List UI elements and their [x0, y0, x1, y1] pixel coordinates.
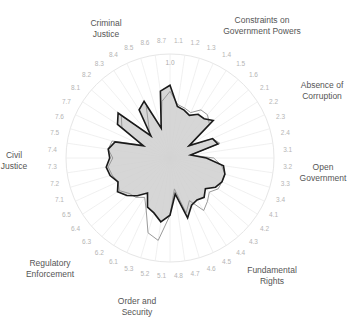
spoke-tick-label: 7.2 — [50, 180, 59, 187]
spoke-tick-label: 4.2 — [260, 225, 269, 232]
spoke-tick-label: 8.5 — [124, 44, 133, 51]
spoke-tick-label: 5.2 — [140, 270, 149, 277]
spoke-tick-label: 7.4 — [48, 146, 57, 153]
dimension-label: Constraints onGovernment Powers — [223, 15, 300, 36]
spoke-tick-label: 1.5 — [236, 60, 245, 67]
spoke-tick-label: 5.3 — [124, 265, 133, 272]
spoke-tick-label: 8.4 — [109, 51, 118, 58]
spoke-tick-label: 2.4 — [281, 129, 290, 136]
spoke-tick-label: 3.1 — [283, 146, 292, 153]
spoke-tick-label: 3.4 — [276, 196, 285, 203]
spoke-tick-label: 2.1 — [260, 84, 269, 91]
spoke-tick-label: 6.5 — [62, 211, 71, 218]
spoke-tick-label: 4.6 — [207, 265, 216, 272]
spoke-tick-label: 1.4 — [222, 51, 231, 58]
spoke-tick-label: 3.3 — [281, 180, 290, 187]
spoke-tick-label: 4.5 — [222, 258, 231, 265]
dimension-label: CriminalJustice — [90, 18, 121, 39]
spoke-tick-label: 8.6 — [140, 39, 149, 46]
dimension-label: OpenGovernment — [300, 162, 347, 183]
spoke-tick-label: 8.1 — [71, 84, 80, 91]
dimension-label: Absence ofCorruption — [301, 80, 344, 101]
spoke-tick-label: 2.2 — [269, 98, 278, 105]
spoke-tick-label: 8.2 — [82, 71, 91, 78]
radar-chart: 1.11.21.31.41.51.62.12.22.32.43.13.23.33… — [0, 0, 350, 321]
dimension-label: FundamentalRights — [247, 265, 297, 286]
spoke-tick-label: 6.4 — [71, 225, 80, 232]
spoke-tick-label: 4.7 — [191, 270, 200, 277]
spoke-tick-label: 1.1 — [174, 37, 183, 44]
spoke-tick-label: 8.7 — [157, 37, 166, 44]
ring-value-label: 1.0 — [165, 59, 174, 66]
dimension-label: CivilJustice — [1, 150, 28, 171]
spoke-tick-label: 7.5 — [50, 129, 59, 136]
spoke-tick-label: 1.2 — [191, 39, 200, 46]
spoke-tick-label: 3.2 — [283, 163, 292, 170]
spoke-tick-label: 2.3 — [276, 113, 285, 120]
spoke-tick-label: 4.1 — [269, 211, 278, 218]
spoke-tick-label: 4.3 — [249, 238, 258, 245]
spoke-tick-label: 8.3 — [95, 60, 104, 67]
dimension-label: Order andSecurity — [118, 296, 157, 317]
spoke-tick-label: 7.3 — [48, 163, 57, 170]
spoke-tick-label: 4.4 — [236, 249, 245, 256]
spoke-tick-label: 7.6 — [55, 113, 64, 120]
spoke-tick-label: 4.8 — [174, 272, 183, 279]
spoke-tick-label: 7.7 — [62, 98, 71, 105]
spoke-tick-label: 7.1 — [55, 196, 64, 203]
spoke-tick-label: 1.3 — [207, 44, 216, 51]
spoke-tick-label: 5.1 — [157, 272, 166, 279]
spoke-tick-label: 6.1 — [109, 258, 118, 265]
spoke-tick-label: 6.3 — [82, 238, 91, 245]
spoke-tick-label: 1.6 — [249, 71, 258, 78]
spoke-tick-label: 6.2 — [95, 249, 104, 256]
dimension-label: RegulatoryEnforcement — [26, 258, 75, 279]
radar-series — [106, 85, 225, 240]
